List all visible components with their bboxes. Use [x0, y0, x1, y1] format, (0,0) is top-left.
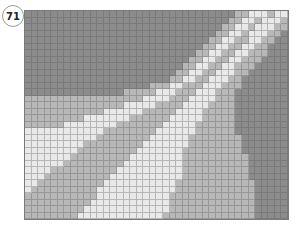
grid-cell [124, 213, 131, 220]
grid-cell [163, 213, 170, 220]
grid-cell [196, 213, 203, 220]
grid-cell [71, 213, 78, 220]
grid-cell [176, 213, 183, 220]
grid-cell [189, 213, 196, 220]
grid-cell [104, 213, 111, 220]
grid-cell [156, 213, 163, 220]
grid-cell [97, 213, 104, 220]
grid-cell [275, 213, 282, 220]
grid-cell [268, 213, 275, 220]
grid-cell [32, 213, 39, 220]
grid-cell [255, 213, 262, 220]
grid-cell [235, 213, 242, 220]
grid-cell [91, 213, 98, 220]
grid-cell [222, 213, 229, 220]
grid-cell [45, 213, 52, 220]
grid-cell [58, 213, 65, 220]
grid-cell [110, 213, 117, 220]
grid-cell [64, 213, 71, 220]
grid-cell [170, 213, 177, 220]
puzzle-number: 71 [6, 11, 20, 22]
grid-cell [137, 213, 144, 220]
grid-cell [229, 213, 236, 220]
pixel-grid [24, 10, 289, 220]
grid-cell [203, 213, 210, 220]
grid-cell [281, 213, 288, 220]
grid-cell [262, 213, 269, 220]
puzzle-number-badge: 71 [2, 5, 24, 27]
grid-cell [38, 213, 45, 220]
grid-cell [78, 213, 85, 220]
grid-cell [143, 213, 150, 220]
grid-cell [209, 213, 216, 220]
grid-cell [242, 213, 249, 220]
grid-cell [130, 213, 137, 220]
